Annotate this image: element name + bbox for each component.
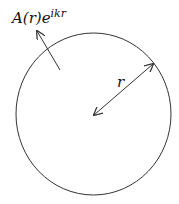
outgoing-wave-arrow [37,31,60,70]
sphere-circle [16,33,171,195]
radius-label: r [117,73,125,91]
wave-amplitude-label: A(r)eikr [10,7,67,27]
spherical-wave-diagram: A(r)eikr r [0,0,179,204]
